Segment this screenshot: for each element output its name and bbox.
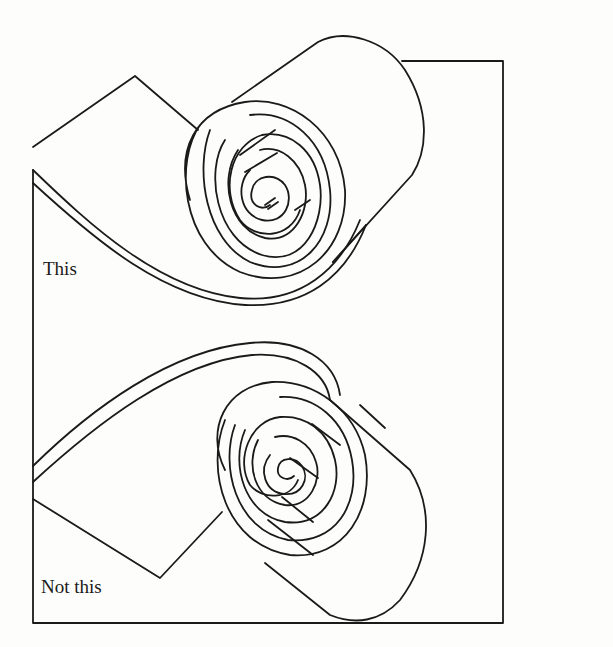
rolled-sheet-diagram <box>0 0 613 647</box>
label-not-this: Not this <box>41 577 102 596</box>
label-this: This <box>43 259 77 278</box>
top-roll-illustration <box>33 36 424 305</box>
